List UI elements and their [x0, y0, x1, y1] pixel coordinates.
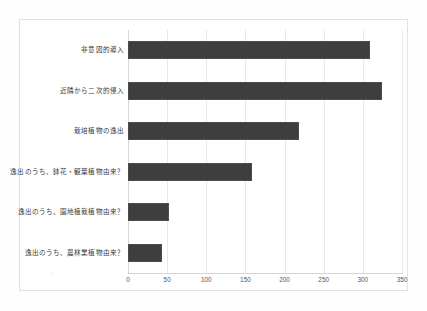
- category-label: 逸出のうち、農林業植物由来？: [25, 248, 124, 257]
- gridline: [167, 30, 168, 273]
- bar-fill: [128, 163, 252, 181]
- gridline: [245, 30, 246, 273]
- bar: [128, 82, 382, 100]
- x-tick-label: 250: [318, 276, 329, 283]
- bar: [128, 203, 169, 221]
- x-tick-label: 200: [279, 276, 290, 283]
- x-tick-label: 350: [397, 276, 408, 283]
- x-tick-label: 150: [240, 276, 251, 283]
- bar: [128, 41, 370, 59]
- category-label: 逸出のうち、鉢花・観葉植物由来？: [10, 167, 124, 176]
- bar: [128, 163, 252, 181]
- chart-figure: 非意図的導入近隣から二次的侵入栽培植物の逸出逸出のうち、鉢花・観葉植物由来？逸出…: [0, 0, 427, 311]
- bar: [128, 244, 162, 262]
- gridline: [285, 30, 286, 273]
- category-label: 栽培植物の逸出: [74, 126, 124, 135]
- bar-fill: [128, 122, 299, 140]
- gridline: [128, 30, 129, 273]
- gridline: [402, 30, 403, 273]
- bar-fill: [128, 203, 169, 221]
- bar: [128, 122, 299, 140]
- bar-fill: [128, 41, 370, 59]
- gridline: [363, 30, 364, 273]
- plot-area: [128, 30, 402, 273]
- x-axis-line: [128, 273, 403, 274]
- gridline: [324, 30, 325, 273]
- bar-fill: [128, 82, 382, 100]
- category-label: 非意図的導入: [81, 45, 124, 54]
- category-label: 近隣から二次的侵入: [60, 86, 124, 95]
- x-tick-label: 50: [164, 276, 171, 283]
- x-tick-label: 100: [201, 276, 212, 283]
- bar-fill: [128, 244, 162, 262]
- gridline: [206, 30, 207, 273]
- x-tick-label: 0: [126, 276, 130, 283]
- x-tick-label: 300: [358, 276, 369, 283]
- category-label: 逸出のうち、園地植栽植物由来？: [18, 207, 125, 216]
